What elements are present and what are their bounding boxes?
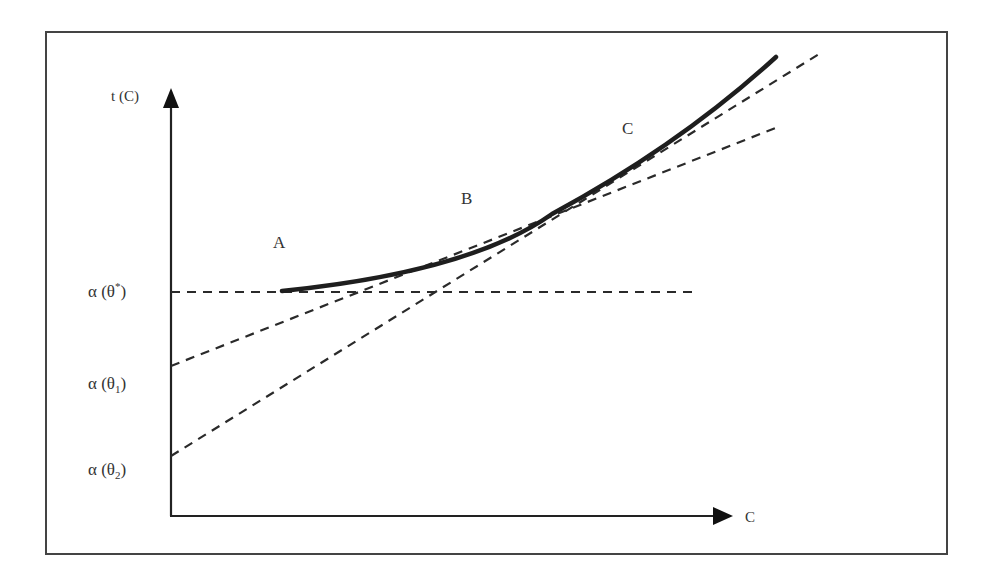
tangent-line-theta-1	[171, 127, 778, 366]
x-axis-arrow-icon	[713, 507, 733, 525]
tangent-line-theta-2	[171, 54, 819, 456]
tick-label-theta-2: α (θ2)	[88, 460, 126, 481]
tangent-lines-diagram: t (C) C α (θ*) α (θ1) α (θ2) A B C	[0, 0, 991, 578]
cost-curve	[282, 57, 776, 291]
region-label-a: A	[273, 233, 286, 252]
y-axis-label: t (C)	[111, 88, 139, 105]
region-label-c: C	[622, 119, 633, 138]
tick-label-theta-1: α (θ1)	[88, 374, 126, 395]
tick-label-theta-star: α (θ*)	[88, 280, 126, 301]
x-axis-label: C	[745, 509, 755, 525]
region-label-b: B	[461, 189, 472, 208]
y-axis-arrow-icon	[163, 88, 179, 108]
